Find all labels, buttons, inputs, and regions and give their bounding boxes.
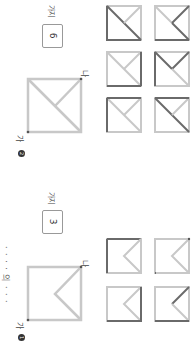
- option-1d[interactable]: [154, 286, 190, 322]
- option-1b[interactable]: [154, 238, 190, 274]
- problem-number-2: 2: [18, 150, 25, 157]
- answer-unit-2: 가지: [47, 5, 57, 17]
- start-label-2: 가: [15, 135, 26, 142]
- option-2b[interactable]: [154, 5, 190, 41]
- figure-2: [27, 78, 83, 134]
- option-2c[interactable]: [106, 51, 142, 87]
- answer-value-1: 3: [43, 211, 62, 233]
- end-label-2: 나: [80, 70, 91, 77]
- answer-box-1[interactable]: 3: [42, 210, 63, 234]
- answer-box-2[interactable]: 6: [42, 24, 63, 48]
- option-1a[interactable]: [106, 238, 142, 274]
- answer-value-2: 6: [43, 25, 62, 47]
- option-1c[interactable]: [106, 286, 142, 322]
- option-2a[interactable]: [106, 5, 142, 41]
- start-label-1: 가: [15, 322, 26, 329]
- figure-1: [27, 266, 83, 322]
- option-2d[interactable]: [154, 51, 190, 87]
- instruction-text: · · · · 의 · · ·: [2, 246, 12, 336]
- option-2e[interactable]: [106, 97, 142, 133]
- problem-number-1: 1: [18, 334, 25, 341]
- answer-unit-1: 가지: [47, 192, 57, 204]
- option-2f[interactable]: [154, 97, 190, 133]
